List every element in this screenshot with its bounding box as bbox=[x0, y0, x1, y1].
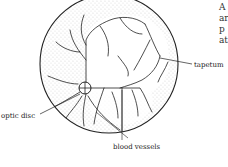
tapetum-label: tapetum bbox=[194, 61, 224, 69]
side-text-line-4: at bbox=[219, 35, 228, 46]
optic-disc-label: optic disc bbox=[1, 112, 35, 120]
side-text-line-1: A bbox=[219, 2, 226, 13]
blood-vessels-label: blood vessels bbox=[113, 143, 160, 151]
side-text-line-3: p bbox=[219, 24, 225, 35]
side-text-line-2: ar bbox=[219, 13, 228, 24]
fundus-diagram bbox=[0, 0, 228, 167]
